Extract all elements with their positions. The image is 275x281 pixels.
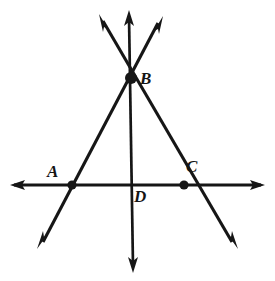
line-through-B-and-A (43, 23, 158, 242)
vertex-dot-b (125, 72, 137, 84)
line-through-B-and-C (103, 21, 232, 242)
geometry-canvas (0, 0, 275, 281)
vertex-dot-c (179, 180, 188, 189)
point-label-d: D (134, 188, 146, 205)
point-label-a: A (47, 163, 58, 180)
point-label-b: B (140, 70, 151, 87)
point-label-c: C (186, 158, 197, 175)
geometry-figure: A B C D (0, 0, 275, 281)
line-B-C-group (99, 14, 238, 249)
line-B-A-group (37, 16, 163, 249)
vertical-line (129, 16, 133, 266)
vertex-dot-a (67, 180, 76, 189)
vertical-line-group (124, 10, 138, 273)
